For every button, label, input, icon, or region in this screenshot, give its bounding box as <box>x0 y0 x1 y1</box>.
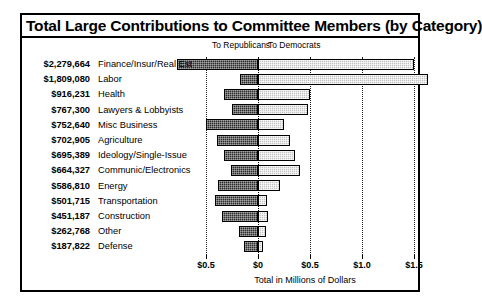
bar-row <box>190 133 420 148</box>
total-amount-label: $702,905 <box>18 133 90 148</box>
category-label: Lawyers & Lobbyists <box>98 103 183 118</box>
x-tick-label: $1.0 <box>353 260 371 270</box>
total-amount-label: $695,389 <box>18 148 90 163</box>
total-amount-label: $187,822 <box>18 239 90 254</box>
bar-republicans <box>218 180 258 191</box>
bar-democrats <box>258 241 263 252</box>
category-label: Labor <box>98 72 122 87</box>
bar-democrats <box>258 165 300 176</box>
total-amount-label: $767,300 <box>18 103 90 118</box>
bar-democrats <box>258 135 290 146</box>
bar-democrats <box>258 104 308 115</box>
bar-row <box>190 194 420 209</box>
bar-democrats <box>258 119 284 130</box>
total-amount-label: $262,768 <box>18 224 90 239</box>
category-label: Communic/Electronics <box>98 163 190 178</box>
bar-republicans <box>239 226 258 237</box>
bar-democrats <box>258 180 280 191</box>
x-tick-mark <box>206 255 207 259</box>
bar-republicans <box>222 211 258 222</box>
total-amount-label: $586,810 <box>18 179 90 194</box>
category-label: Misc Business <box>98 118 157 133</box>
x-tick-mark <box>362 255 363 259</box>
total-amount-label: $2,279,664 <box>18 57 90 72</box>
category-label: Ideology/Single-Issue <box>98 148 187 163</box>
bar-republicans <box>232 104 258 115</box>
total-amount-label: $501,715 <box>18 194 90 209</box>
x-tick-mark <box>310 255 311 259</box>
bar-democrats <box>258 89 310 100</box>
bar-republicans <box>240 74 258 85</box>
bar-democrats <box>258 226 266 237</box>
x-tick-mark <box>258 255 259 259</box>
bar-row <box>190 224 420 239</box>
bar-row <box>190 148 420 163</box>
chart-title: Total Large Contributions to Committee M… <box>26 17 418 35</box>
bar-row <box>190 103 420 118</box>
x-tick-label: $0.5 <box>301 260 319 270</box>
x-tick-label: $0.5 <box>197 260 215 270</box>
bar-republicans <box>206 119 258 130</box>
x-tick-mark <box>414 255 415 259</box>
x-tick-label: $1.5 <box>405 260 423 270</box>
bar-republicans <box>215 195 258 206</box>
bar-row <box>190 57 420 72</box>
bar-democrats <box>258 150 295 161</box>
category-label: Health <box>98 87 125 102</box>
total-amount-label: $451,187 <box>18 209 90 224</box>
category-label: Transportation <box>98 194 158 209</box>
title-divider <box>22 36 418 38</box>
bar-row <box>190 118 420 133</box>
legend-label-republicans: To Republicans <box>212 40 270 50</box>
bar-row <box>190 239 420 254</box>
bar-republicans <box>224 150 258 161</box>
bar-row <box>190 179 420 194</box>
bar-republicans <box>217 135 258 146</box>
x-axis-label: Total in Millions of Dollars <box>190 275 420 285</box>
legend-label-democrats: To Democrats <box>268 40 320 50</box>
category-label: Construction <box>98 209 150 224</box>
category-label: Agriculture <box>98 133 142 148</box>
bar-democrats <box>258 211 268 222</box>
total-amount-label: $916,231 <box>18 87 90 102</box>
x-tick-label: $0 <box>253 260 263 270</box>
bar-republicans <box>231 165 258 176</box>
bar-row <box>190 72 420 87</box>
bar-democrats <box>258 74 428 85</box>
category-label: Finance/Insur/Real Est <box>98 57 192 72</box>
bar-republicans <box>244 241 258 252</box>
category-label: Other <box>98 224 121 239</box>
category-label: Defense <box>98 239 133 254</box>
bar-democrats <box>258 195 267 206</box>
category-label: Energy <box>98 179 127 194</box>
total-amount-label: $664,327 <box>18 163 90 178</box>
plot-area <box>190 57 420 255</box>
bar-row <box>190 209 420 224</box>
bar-row <box>190 87 420 102</box>
bar-democrats <box>258 59 414 70</box>
total-amount-label: $752,640 <box>18 118 90 133</box>
total-amount-label: $1,809,080 <box>18 72 90 87</box>
bar-republicans <box>224 89 258 100</box>
bar-row <box>190 163 420 178</box>
